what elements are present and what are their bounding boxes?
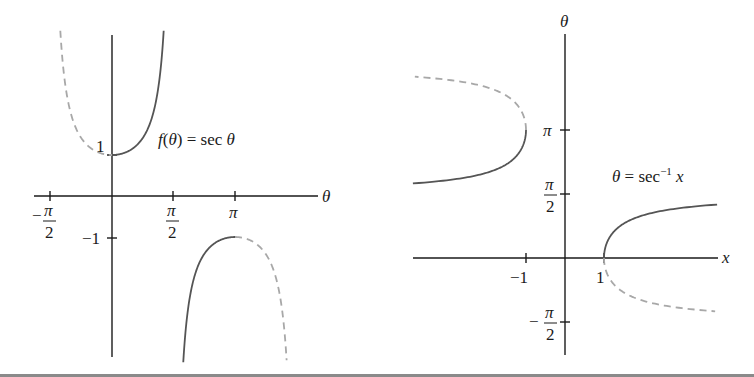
sec-curve-dashed-lower [235,237,287,360]
left-label-pi-half: π 2 [166,201,179,242]
right-function-label: θ = sec−1x [612,165,684,186]
left-label-pi: π [229,203,238,222]
x-symbol: x [675,167,684,186]
frac-denominator: 2 [546,197,555,216]
frac-numerator: π [545,303,554,322]
right-label-1: 1 [596,268,605,287]
right-label-neg1: −1 [510,268,528,287]
figure: θ − π 2 π 2 π 1 −1 f(θ) = sec θ [0,0,754,377]
inverse-superscript: −1 [660,165,672,177]
theta-symbol: θ [168,130,176,149]
arcsec-curve-dashed-left [415,77,526,130]
left-label-y-1: 1 [96,137,105,156]
frac-numerator: π [44,201,53,220]
sec-curve-solid-upper [112,31,164,155]
right-y-axis-label: θ [560,12,568,31]
left-x-axis-label: θ [322,187,330,206]
frac-denominator: 2 [546,325,555,344]
frac-numerator: π [545,175,554,194]
theta-symbol: θ [226,130,234,149]
arcsec-curve-dashed-right [604,258,715,311]
left-graph-sec: θ − π 2 π 2 π 1 −1 f(θ) = sec θ [32,31,330,362]
arcsec-curve-solid-left [413,130,526,183]
sec-curve-solid-lower [183,237,235,362]
left-function-label: f(θ) = sec θ [158,130,235,149]
frac-denominator: 2 [45,223,54,242]
left-label-neg-pi-half: − π 2 [32,201,56,242]
left-label-y-neg1: −1 [82,229,100,248]
frac-denominator: 2 [168,223,177,242]
right-label-neg-pi-half: − π 2 [529,303,557,344]
theta-symbol: θ [612,167,620,186]
equals-sec: = sec [620,167,660,186]
right-graph-arcsec: x θ −1 1 π π 2 − π 2 θ = sec−1x [413,12,730,355]
minus-sign: − [529,312,539,331]
right-label-pi: π [543,121,552,140]
right-label-pi-half: π 2 [544,175,557,216]
frac-numerator: π [167,201,176,220]
arcsec-curve-solid-right [604,205,717,258]
right-x-axis-label: x [721,248,730,267]
minus-sign: − [32,206,42,225]
equals-sec: = sec [182,130,226,149]
